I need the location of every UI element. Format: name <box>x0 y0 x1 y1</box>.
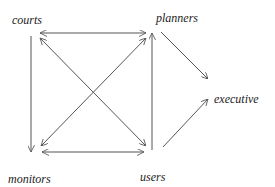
node-executive: executive <box>214 92 259 106</box>
diagram-canvas: courts planners executive monitors users <box>0 0 275 187</box>
node-planners: planners <box>155 11 198 25</box>
edge-users-executive <box>163 99 208 147</box>
node-monitors: monitors <box>8 172 51 186</box>
edge-planners-executive <box>161 32 208 79</box>
node-courts: courts <box>12 13 42 27</box>
node-users: users <box>140 170 166 184</box>
